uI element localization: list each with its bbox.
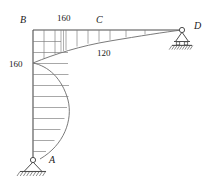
node-label-a: A — [49, 155, 55, 165]
moment-value-beam-top: 160 — [57, 14, 71, 23]
node-label-c: C — [96, 15, 103, 25]
diagram-canvas — [0, 0, 209, 180]
beam-moment-curve — [33, 30, 182, 63]
support-d-ground-hatch — [169, 45, 193, 49]
moment-value-column: 160 — [9, 60, 23, 69]
moment-value-beam-mid: 120 — [97, 49, 111, 58]
node-label-d: D — [194, 21, 201, 31]
support-a-ground-hatch — [17, 172, 46, 177]
node-label-b: B — [20, 15, 26, 25]
bending-moment-figure: B C D A 160 160 120 — [0, 0, 209, 180]
support-a — [17, 157, 46, 176]
support-d — [169, 27, 193, 49]
beam-hatch-dense-group — [61, 30, 64, 52]
column-moment-curve — [33, 63, 69, 159]
